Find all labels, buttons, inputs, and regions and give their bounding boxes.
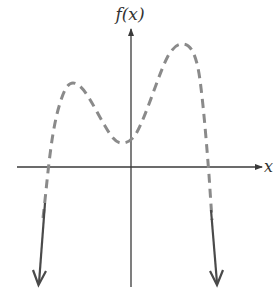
left-end-arrow-icon <box>33 203 46 285</box>
right-end-arrow-icon <box>210 210 223 285</box>
x-axis-label: x <box>264 157 273 176</box>
y-axis-label: f(x) <box>113 4 144 24</box>
polynomial-curve <box>43 44 212 220</box>
polynomial-graph: f(x) x <box>0 0 273 298</box>
